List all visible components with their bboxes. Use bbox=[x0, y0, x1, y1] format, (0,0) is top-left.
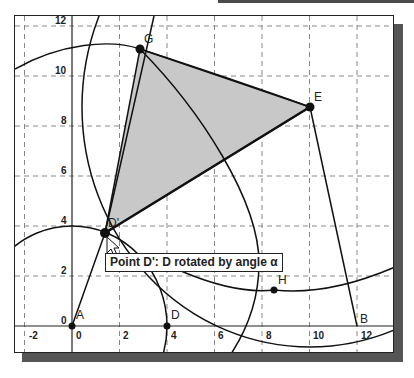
frame-shadow-bottom bbox=[22, 353, 403, 362]
label-e: E bbox=[314, 90, 322, 104]
x-tick: 10 bbox=[313, 330, 325, 341]
y-tick: 12 bbox=[55, 16, 67, 26]
y-tick: 4 bbox=[61, 215, 67, 226]
y-tick: 10 bbox=[55, 65, 67, 76]
y-tick: 8 bbox=[61, 115, 67, 126]
x-tick: -2 bbox=[29, 330, 38, 341]
label-b: B bbox=[360, 312, 368, 326]
geometry-canvas[interactable]: A D B D' G E H -2 0 2 4 6 8 10 12 0 2 4 … bbox=[15, 16, 394, 353]
label-h: H bbox=[278, 273, 287, 287]
segment-e-b[interactable] bbox=[310, 107, 357, 326]
point-h[interactable] bbox=[271, 287, 278, 294]
label-d: D bbox=[171, 308, 180, 322]
polygon-dprime-g-e[interactable] bbox=[105, 49, 310, 233]
label-dprime: D' bbox=[108, 216, 119, 230]
title-bar-edge bbox=[218, 0, 414, 3]
tooltip: Point D': D rotated by angle α bbox=[105, 253, 283, 272]
y-tick: 0 bbox=[61, 315, 67, 326]
x-tick: 0 bbox=[76, 330, 82, 341]
x-tick: 12 bbox=[361, 330, 373, 341]
frame-shadow-right bbox=[394, 24, 403, 362]
x-tick: 6 bbox=[218, 330, 224, 341]
y-tick: 2 bbox=[61, 265, 67, 276]
axes bbox=[15, 16, 394, 353]
label-a: A bbox=[76, 308, 84, 322]
label-g: G bbox=[144, 32, 153, 46]
x-tick: 8 bbox=[266, 330, 272, 341]
point-d[interactable] bbox=[164, 323, 171, 330]
graphics-view[interactable]: A D B D' G E H -2 0 2 4 6 8 10 12 0 2 4 … bbox=[14, 15, 394, 353]
x-tick: 4 bbox=[171, 330, 177, 341]
y-tick: 6 bbox=[61, 165, 67, 176]
point-a[interactable] bbox=[69, 323, 76, 330]
x-tick: 2 bbox=[123, 330, 129, 341]
